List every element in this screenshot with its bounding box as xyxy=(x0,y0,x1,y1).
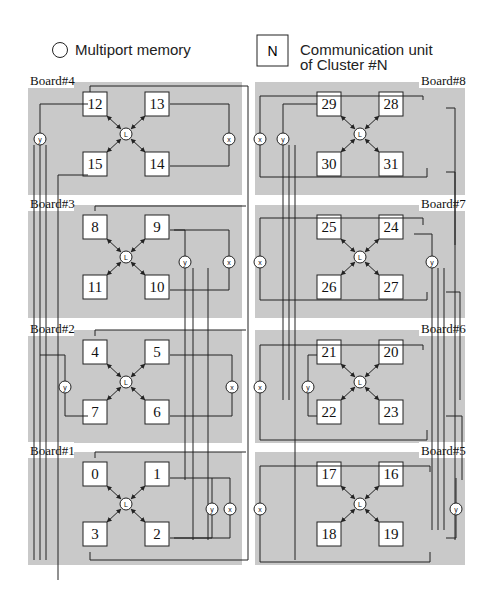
local-memory-icon: L xyxy=(354,128,366,140)
communication-unit-8: 8 xyxy=(83,215,107,239)
local-memory-icon: L xyxy=(354,251,366,263)
communication-unit-6: 6 xyxy=(145,400,169,424)
communication-unit-15: 15 xyxy=(83,152,107,176)
svg-text:11: 11 xyxy=(88,279,102,295)
local-memory-icon: L xyxy=(120,251,132,263)
svg-text:27: 27 xyxy=(384,279,400,295)
board-label: Board#2 xyxy=(30,321,75,336)
communication-unit-4: 4 xyxy=(83,340,107,364)
x-memory-icon: x xyxy=(224,503,236,515)
communication-unit-3: 3 xyxy=(83,522,107,546)
communication-unit-25: 25 xyxy=(317,215,341,239)
svg-text:26: 26 xyxy=(322,279,338,295)
communication-unit-27: 27 xyxy=(379,275,403,299)
local-memory-icon: L xyxy=(120,128,132,140)
communication-unit-5: 5 xyxy=(145,340,169,364)
y-memory-icon: y xyxy=(302,381,314,393)
svg-text:y: y xyxy=(63,384,67,392)
local-memory-icon: L xyxy=(120,376,132,388)
memory-legend-icon xyxy=(53,43,68,58)
x-memory-icon: x xyxy=(223,133,235,145)
svg-text:L: L xyxy=(358,254,362,261)
svg-text:12: 12 xyxy=(88,96,103,112)
communication-unit-31: 31 xyxy=(379,152,403,176)
communication-unit-20: 20 xyxy=(379,340,403,364)
svg-text:19: 19 xyxy=(384,526,399,542)
communication-unit-26: 26 xyxy=(317,275,341,299)
board-board6: Board#621202223L xyxy=(255,320,466,443)
x-memory-icon: x xyxy=(226,381,238,393)
svg-text:21: 21 xyxy=(322,344,337,360)
svg-text:y: y xyxy=(306,384,310,392)
svg-text:L: L xyxy=(358,131,362,138)
boards: Board#412131514LBoard#3891110LBoard#2457… xyxy=(28,72,466,572)
local-memory-icon: L xyxy=(354,498,366,510)
communication-unit-19: 19 xyxy=(379,522,403,546)
svg-text:x: x xyxy=(230,384,234,391)
svg-text:18: 18 xyxy=(322,526,337,542)
svg-text:y: y xyxy=(281,136,285,144)
board-board5: Board#517161819L xyxy=(255,442,466,565)
svg-text:y: y xyxy=(38,136,42,144)
local-memory-icon: L xyxy=(354,376,366,388)
communication-unit-24: 24 xyxy=(379,215,403,239)
svg-text:x: x xyxy=(227,259,231,266)
x-memory-icon: x xyxy=(254,381,266,393)
svg-text:7: 7 xyxy=(91,404,99,420)
communication-unit-21: 21 xyxy=(317,340,341,364)
communication-unit-22: 22 xyxy=(317,400,341,424)
svg-text:L: L xyxy=(358,501,362,508)
board-background xyxy=(28,82,242,195)
board-board4: Board#412131514L xyxy=(28,72,242,195)
board-background xyxy=(28,205,242,318)
board-board3: Board#3891110L xyxy=(28,195,242,318)
cu-legend-symbol: N xyxy=(267,43,277,59)
svg-text:17: 17 xyxy=(322,466,338,482)
svg-text:L: L xyxy=(124,131,128,138)
svg-text:28: 28 xyxy=(384,96,399,112)
memory-legend-label: Multiport memory xyxy=(75,41,191,58)
svg-text:x: x xyxy=(258,506,262,513)
y-memory-icon: y xyxy=(206,503,218,515)
board-label: Board#4 xyxy=(30,73,75,88)
svg-text:2: 2 xyxy=(153,526,161,542)
svg-text:y: y xyxy=(210,506,214,514)
svg-text:29: 29 xyxy=(322,96,337,112)
local-memory-icon: L xyxy=(120,498,132,510)
svg-text:31: 31 xyxy=(384,156,399,172)
svg-text:13: 13 xyxy=(150,96,165,112)
svg-text:1: 1 xyxy=(153,466,161,482)
communication-unit-11: 11 xyxy=(83,275,107,299)
svg-text:16: 16 xyxy=(384,466,400,482)
svg-text:L: L xyxy=(358,379,362,386)
svg-text:L: L xyxy=(124,254,128,261)
svg-text:x: x xyxy=(258,259,262,266)
svg-text:24: 24 xyxy=(384,219,400,235)
svg-text:y: y xyxy=(430,259,434,267)
communication-unit-7: 7 xyxy=(83,400,107,424)
board-label: Board#7 xyxy=(421,196,466,211)
svg-text:4: 4 xyxy=(91,344,99,360)
x-memory-icon: x xyxy=(254,503,266,515)
svg-text:L: L xyxy=(124,501,128,508)
board-label: Board#1 xyxy=(30,443,75,458)
svg-text:x: x xyxy=(258,384,262,391)
svg-text:3: 3 xyxy=(91,526,99,542)
svg-text:30: 30 xyxy=(322,156,337,172)
svg-text:L: L xyxy=(124,379,128,386)
y-memory-icon: y xyxy=(277,133,289,145)
svg-text:6: 6 xyxy=(153,404,161,420)
y-memory-icon: y xyxy=(34,133,46,145)
svg-text:14: 14 xyxy=(150,156,166,172)
board-board2: Board#24576L xyxy=(28,320,242,443)
svg-text:8: 8 xyxy=(91,219,99,235)
cluster-network-diagram: Multiport memory N Communication unit of… xyxy=(0,0,495,592)
communication-unit-18: 18 xyxy=(317,522,341,546)
svg-text:15: 15 xyxy=(88,156,103,172)
legend: Multiport memory N Communication unit of… xyxy=(53,35,434,73)
communication-unit-30: 30 xyxy=(317,152,341,176)
svg-text:y: y xyxy=(183,259,187,267)
svg-text:x: x xyxy=(228,506,232,513)
y-memory-icon: y xyxy=(450,503,462,515)
cu-legend-label-line2: of Cluster #N xyxy=(300,56,388,73)
